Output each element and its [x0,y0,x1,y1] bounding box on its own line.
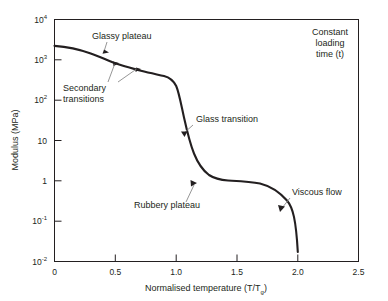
y-tick-label-mantissa: 10 [34,55,44,65]
annotation-secondary-transitions-label-line2: transitions [63,94,105,104]
annotation-secondary-transitions-label-line1: Secondary [63,83,107,93]
annotation-glass-transition-label: Glass transition [196,114,258,124]
modulus-curve [55,46,298,252]
constant-loading-time-line3: time (t) [316,49,344,59]
y-tick-labels: 104 103 102 10 1 10-1 10-2 [32,14,47,267]
y-tick-label-exponent: 4 [44,14,48,20]
annotation-glassy-plateau-label: Glassy plateau [92,31,152,41]
y-tick-label-mantissa: 10 [32,216,42,226]
x-tick-label: 2.0 [292,267,304,277]
svg-text:10: 10 [38,136,48,146]
modulus-temperature-chart: 104 103 102 10 1 10-1 10-2 0 0.5 [0,0,388,301]
x-tick-label: 1.5 [231,267,243,277]
svg-text:102: 102 [34,94,47,105]
y-tick-label-exponent: 2 [44,94,48,100]
x-tick-labels: 0 0.5 1.0 1.5 2.0 2.5 [52,267,365,277]
svg-text:1: 1 [42,176,47,186]
y-axis-ticks [55,20,62,262]
svg-text:103: 103 [34,54,47,65]
annotation-viscous-flow: Viscous flow [278,187,342,212]
x-tick-label: 1.0 [170,267,182,277]
y-tick-label-mantissa: 10 [38,136,48,146]
y-tick-label-exponent: -2 [42,256,48,262]
x-axis-title-close: ) [264,283,267,293]
x-tick-label: 2.5 [353,267,365,277]
annotation-glass-transition: Glass transition [181,114,258,137]
y-tick-label-exponent: 3 [44,54,48,60]
x-tick-label: 0 [52,267,57,277]
plot-frame [55,20,359,262]
constant-loading-time-line2: loading [315,38,344,48]
annotation-glassy-plateau: Glassy plateau [92,31,152,50]
x-axis-title: Normalised temperature (T/Tg) [145,283,267,295]
annotation-secondary-transitions: Secondary transitions [63,65,137,105]
y-tick-label-exponent: -1 [42,215,48,221]
annotation-rubbery-plateau: Rubbery plateau [134,180,200,210]
y-tick-label-mantissa: 10 [34,95,44,105]
svg-text:10-2: 10-2 [32,256,47,267]
y-tick-label-mantissa: 10 [34,15,44,25]
annotation-rubbery-plateau-label: Rubbery plateau [134,200,200,210]
x-axis-ticks [55,255,359,262]
y-tick-label-mantissa: 1 [42,176,47,186]
y-tick-label-mantissa: 10 [32,257,42,267]
annotation-constant-loading-time: Constant loading time (t) [312,27,349,59]
x-axis-title-main: Normalised temperature (T/T [145,283,261,293]
svg-text:104: 104 [34,14,47,25]
x-tick-label: 0.5 [109,267,121,277]
y-axis-title: Modulus (MPa) [10,109,20,170]
annotation-viscous-flow-label: Viscous flow [292,187,342,197]
constant-loading-time-line1: Constant [312,27,349,37]
chart-figure: 104 103 102 10 1 10-1 10-2 0 0.5 [0,0,388,301]
svg-text:10-1: 10-1 [32,215,47,226]
